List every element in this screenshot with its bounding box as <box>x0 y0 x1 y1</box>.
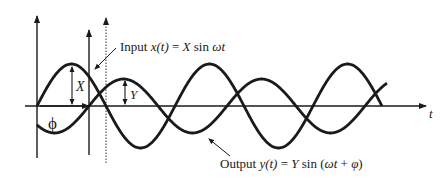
input-equation-label: Input x(t) = X sin ωt <box>120 39 225 54</box>
frequency-response-diagram: X Y ϕ t Input x(t) = X sin ωt Output y(t… <box>0 0 443 178</box>
time-axis-label: t <box>429 106 433 121</box>
output-pointer-arrow <box>209 139 230 156</box>
amplitude-x-label: X <box>75 79 85 94</box>
phase-label: ϕ <box>48 114 57 133</box>
output-equation-label: Output y(t) = Y sin (ωt + φ) <box>220 156 363 171</box>
amplitude-y-label: Y <box>130 87 139 102</box>
